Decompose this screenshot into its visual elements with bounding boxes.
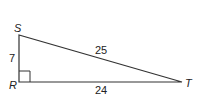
vertex-label-r: R — [9, 79, 17, 91]
side-label-rt: 24 — [95, 84, 107, 96]
vertex-label-t: T — [185, 77, 193, 89]
right-triangle-diagram: S R T 7 25 24 — [0, 0, 202, 98]
right-angle-marker — [19, 71, 30, 82]
side-label-sr: 7 — [9, 52, 15, 64]
vertex-label-s: S — [14, 22, 22, 34]
triangle-srt — [19, 35, 182, 82]
side-label-st: 25 — [95, 44, 107, 56]
